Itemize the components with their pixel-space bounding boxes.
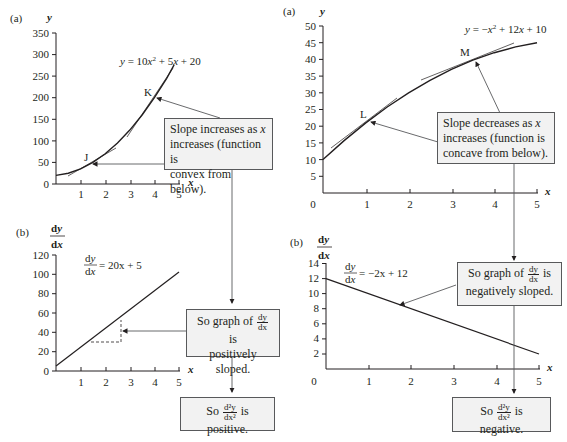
svg-text:45: 45 bbox=[305, 37, 317, 49]
svg-text:5: 5 bbox=[176, 376, 182, 388]
svg-text:250: 250 bbox=[33, 70, 50, 82]
svg-text:150: 150 bbox=[33, 113, 50, 125]
point-label-K: K bbox=[144, 86, 152, 98]
svg-text:dy: dy bbox=[51, 222, 62, 234]
annotation-box-convex: Slope increases as x increases (function… bbox=[164, 118, 273, 170]
arrow-to-M bbox=[476, 62, 500, 113]
x-ticks: 0 1 2 3 4 5 bbox=[311, 365, 542, 387]
svg-text:3: 3 bbox=[451, 375, 457, 387]
svg-text:8: 8 bbox=[314, 302, 320, 314]
svg-text:350: 350 bbox=[33, 27, 50, 39]
svg-text:80: 80 bbox=[38, 287, 50, 299]
x-axis-label: x bbox=[546, 361, 553, 373]
svg-text:dy: dy bbox=[85, 252, 96, 264]
point-label-L: L bbox=[360, 108, 367, 120]
x-ticks: 0 1 2 3 4 5 bbox=[310, 189, 540, 210]
svg-text:0: 0 bbox=[44, 365, 50, 377]
svg-text:2: 2 bbox=[103, 188, 109, 200]
svg-text:5: 5 bbox=[536, 375, 542, 387]
curve-convex bbox=[56, 65, 174, 175]
equation-label: = −2x + 12 bbox=[359, 267, 408, 279]
panel-label: (b) bbox=[290, 236, 303, 249]
svg-text:40: 40 bbox=[38, 326, 50, 338]
svg-text:3: 3 bbox=[128, 376, 134, 388]
tangent-at-J bbox=[68, 148, 116, 176]
point-label-J: J bbox=[84, 151, 89, 163]
svg-text:2: 2 bbox=[408, 375, 414, 387]
tangent-at-L bbox=[331, 98, 397, 148]
svg-text:5: 5 bbox=[311, 170, 317, 182]
x-ticks: 1 2 3 4 5 bbox=[78, 367, 182, 388]
svg-text:3: 3 bbox=[450, 198, 456, 210]
svg-text:14: 14 bbox=[308, 257, 320, 269]
svg-text:1: 1 bbox=[78, 376, 84, 388]
svg-text:dx: dx bbox=[345, 273, 356, 285]
svg-text:0: 0 bbox=[44, 178, 50, 190]
svg-text:4: 4 bbox=[492, 198, 498, 210]
svg-text:100: 100 bbox=[33, 268, 50, 280]
arrow-to-L bbox=[371, 122, 438, 142]
x-ticks: 1 2 3 4 5 bbox=[78, 180, 182, 200]
y-axis-label: y bbox=[318, 5, 325, 17]
figure-canvas: (a) y 350 300 250 200 150 100 50 0 1 2 3… bbox=[0, 0, 567, 442]
svg-text:1: 1 bbox=[78, 188, 84, 200]
y-axis-label: y bbox=[45, 11, 52, 23]
svg-text:2: 2 bbox=[103, 376, 109, 388]
svg-text:15: 15 bbox=[305, 137, 317, 149]
svg-text:dx: dx bbox=[51, 238, 63, 250]
svg-text:10: 10 bbox=[308, 287, 320, 299]
panel-label: (b) bbox=[16, 226, 29, 239]
svg-text:20: 20 bbox=[38, 345, 50, 357]
svg-text:4: 4 bbox=[152, 376, 158, 388]
svg-text:2: 2 bbox=[407, 198, 413, 210]
svg-text:4: 4 bbox=[152, 188, 158, 200]
svg-text:dx: dx bbox=[318, 249, 330, 261]
svg-text:12: 12 bbox=[308, 272, 319, 284]
svg-text:10: 10 bbox=[305, 154, 317, 166]
arrow-to-line bbox=[400, 285, 456, 305]
arrow-to-K bbox=[157, 98, 220, 118]
annotation-box-concave: Slope decreases as x increases (function… bbox=[437, 112, 555, 164]
y-ticks: 14 12 10 8 6 4 2 bbox=[308, 257, 326, 359]
y-ticks: 50 45 40 35 30 25 20 15 10 5 bbox=[305, 20, 323, 182]
svg-text:6: 6 bbox=[314, 317, 320, 329]
svg-text:100: 100 bbox=[33, 135, 50, 147]
svg-text:30: 30 bbox=[305, 87, 317, 99]
panel-label: (a) bbox=[10, 12, 23, 25]
annotation-box-negative-slope: So graph of dydx is negatively sloped. bbox=[457, 262, 562, 306]
svg-text:4: 4 bbox=[494, 375, 500, 387]
equation-label: = 20x + 5 bbox=[99, 259, 142, 271]
annotation-box-positive-second: So d²ydx² is positive. bbox=[180, 397, 275, 431]
point-label-M: M bbox=[460, 46, 470, 58]
svg-text:0: 0 bbox=[310, 198, 316, 210]
svg-text:20: 20 bbox=[305, 120, 317, 132]
slope-triangle bbox=[91, 320, 121, 342]
svg-text:dy: dy bbox=[345, 260, 356, 272]
svg-text:120: 120 bbox=[33, 249, 50, 261]
equation-label: y = 10x2 + 5x + 20 bbox=[119, 55, 201, 67]
svg-text:1: 1 bbox=[364, 198, 370, 210]
svg-text:3: 3 bbox=[128, 188, 134, 200]
svg-text:300: 300 bbox=[33, 48, 50, 60]
panel-label: (a) bbox=[283, 5, 296, 18]
equation-label: y = −x2 + 12x + 10 bbox=[464, 23, 547, 35]
svg-text:5: 5 bbox=[534, 198, 540, 210]
x-axis-label: x bbox=[544, 185, 551, 197]
svg-text:25: 25 bbox=[305, 103, 317, 115]
annotation-box-negative-second: So d²ydx² is negative. bbox=[452, 397, 551, 432]
svg-text:50: 50 bbox=[38, 156, 50, 168]
svg-text:60: 60 bbox=[38, 307, 50, 319]
annotation-box-positive-slope: So graph of dydx is positively sloped. bbox=[186, 309, 280, 357]
svg-text:dx: dx bbox=[85, 265, 96, 277]
svg-text:1: 1 bbox=[366, 375, 372, 387]
svg-text:35: 35 bbox=[305, 70, 317, 82]
svg-text:2: 2 bbox=[314, 347, 320, 359]
line-positive-slope bbox=[56, 272, 179, 366]
svg-text:4: 4 bbox=[314, 332, 320, 344]
svg-text:200: 200 bbox=[33, 91, 50, 103]
svg-text:40: 40 bbox=[305, 53, 317, 65]
svg-text:50: 50 bbox=[305, 20, 317, 32]
y-ticks: 120 100 80 60 40 20 0 bbox=[33, 249, 57, 377]
y-ticks: 350 300 250 200 150 100 50 0 bbox=[33, 27, 57, 190]
svg-text:0: 0 bbox=[311, 375, 317, 387]
